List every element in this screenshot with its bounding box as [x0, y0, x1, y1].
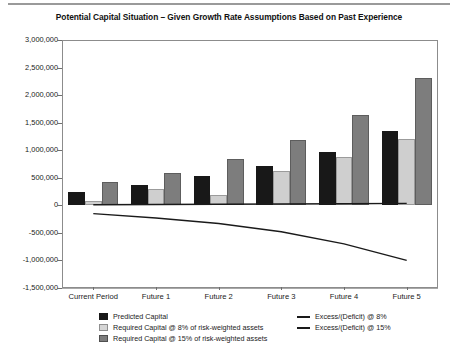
line-series [93, 214, 406, 261]
x-axis-tick-mark [344, 287, 345, 290]
legend-label: Required Capital @ 15% of risk-weighted … [113, 334, 267, 343]
legend-label: Required Capital @ 8% of risk-weighted a… [113, 323, 263, 332]
x-axis-tick-mark [93, 287, 94, 290]
legend-label: Excess/(Deficit) @ 8% [315, 312, 387, 321]
y-axis-tick-label: 1,500,000 [2, 118, 58, 127]
chart-legend: Predicted CapitalRequired Capital @ 8% o… [0, 310, 458, 358]
x-axis: Current PeriodFuture 1Future 2Future 3Fu… [62, 290, 438, 306]
legend-label: Excess/(Deficit) @ 15% [315, 323, 391, 332]
y-axis-tick-label: 2,500,000 [2, 63, 58, 72]
x-axis-tick-mark [281, 287, 282, 290]
y-axis-tick-label: -500,000 [2, 228, 58, 237]
x-axis-tick-mark [156, 287, 157, 290]
y-axis: 3,000,0002,500,0002,000,0001,500,0001,00… [0, 40, 58, 288]
top-divider [8, 3, 450, 5]
gridline [62, 288, 438, 289]
y-axis-tick-label: -1,000,000 [2, 255, 58, 264]
y-axis-tick-label: 1,000,000 [2, 145, 58, 154]
legend-line-icon [297, 327, 310, 329]
y-axis-tick-label: 0 [2, 200, 58, 209]
chart-container: Potential Capital Situation – Given Grow… [0, 0, 458, 364]
y-axis-tick-label: 2,000,000 [2, 90, 58, 99]
y-axis-tick-label: -1,500,000 [2, 283, 58, 292]
legend-swatch-icon [99, 324, 108, 331]
line-series [93, 203, 406, 204]
legend-label: Predicted Capital [113, 312, 168, 321]
lines-layer [62, 40, 438, 288]
x-axis-tick-label: Future 5 [367, 292, 447, 301]
chart-title: Potential Capital Situation – Given Grow… [0, 12, 458, 22]
legend-line-icon [297, 316, 310, 318]
legend-swatch-icon [99, 313, 108, 320]
x-axis-tick-mark [219, 287, 220, 290]
legend-swatch-icon [99, 335, 108, 342]
y-axis-tick-label: 500,000 [2, 173, 58, 182]
x-axis-tick-mark [407, 287, 408, 290]
y-axis-tick-label: 3,000,000 [2, 35, 58, 44]
